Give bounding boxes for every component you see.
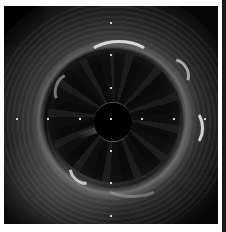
calibration-dot [141, 118, 143, 120]
ivus-image [4, 6, 218, 224]
calibration-dot [79, 118, 81, 120]
echo-arc-top [86, 40, 152, 76]
calibration-dot [110, 54, 112, 56]
calibration-dot [47, 118, 49, 120]
calibration-dot [110, 215, 112, 217]
calibration-dot [110, 150, 112, 152]
catheter [94, 102, 132, 142]
calibration-dot [110, 22, 112, 24]
calibration-dot [204, 118, 206, 120]
calibration-dot [173, 118, 175, 120]
echo-arc-east [182, 110, 204, 146]
calibration-dot [16, 118, 18, 120]
calibration-dot [110, 118, 112, 120]
adjacent-panel-edge [222, 0, 226, 232]
calibration-dot [110, 87, 112, 89]
calibration-dot [110, 182, 112, 184]
echo-arc-south [104, 174, 160, 198]
